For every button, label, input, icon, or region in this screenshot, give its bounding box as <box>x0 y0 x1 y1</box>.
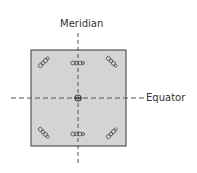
equator-label: Equator <box>146 92 185 103</box>
meridian-label: Meridian <box>60 18 103 29</box>
